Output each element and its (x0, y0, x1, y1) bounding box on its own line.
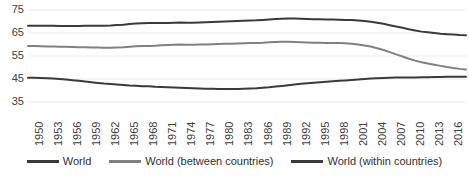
x-tick-label: 2007 (395, 122, 407, 146)
x-tick-label: 2013 (433, 122, 445, 146)
x-tick-label: 1989 (281, 122, 293, 146)
legend-color-swatch (109, 160, 141, 163)
x-tick-label: 1986 (262, 122, 274, 146)
x-tick-label: 1950 (33, 122, 45, 146)
legend-color-swatch (291, 160, 323, 163)
x-tick-label: 1965 (128, 122, 140, 146)
x-tick-label: 2001 (357, 122, 369, 146)
chart-legend: WorldWorld (between countries)World (wit… (0, 155, 469, 167)
legend-label: World (63, 155, 92, 167)
legend-item[interactable]: World (within countries) (291, 155, 442, 167)
x-tick-label: 1953 (52, 122, 64, 146)
x-tick-label: 1995 (319, 122, 331, 146)
x-tick-label: 1962 (109, 122, 121, 146)
legend-label: World (between countries) (145, 155, 273, 167)
x-tick-label: 1956 (71, 122, 83, 146)
x-tick-label: 2010 (414, 122, 426, 146)
legend-color-swatch (27, 160, 59, 163)
x-tick-label: 2016 (452, 122, 464, 146)
legend-label: World (within countries) (327, 155, 442, 167)
x-tick-label: 1959 (90, 122, 102, 146)
x-tick-label: 1971 (166, 122, 178, 146)
x-tick-label: 1980 (223, 122, 235, 146)
x-tick-label: 1983 (242, 122, 254, 146)
legend-item[interactable]: World (27, 155, 92, 167)
x-tick-label: 1968 (147, 122, 159, 146)
x-tick-label: 1992 (300, 122, 312, 146)
x-tick-label: 1977 (204, 122, 216, 146)
line-chart: 7565554535 19501953195619591962196519681… (0, 0, 469, 179)
plot-area (0, 0, 469, 179)
x-tick-label: 2004 (376, 122, 388, 146)
x-tick-label: 1998 (338, 122, 350, 146)
x-tick-label: 1974 (185, 122, 197, 146)
legend-item[interactable]: World (between countries) (109, 155, 273, 167)
